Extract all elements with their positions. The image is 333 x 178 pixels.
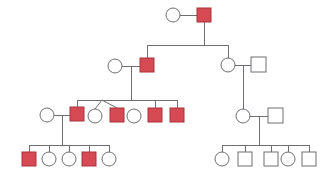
individual-III-8-female-unaffected[interactable] (236, 109, 250, 123)
pedigree-diagram (0, 0, 333, 178)
pedigree-chart (0, 0, 333, 178)
generation-III (29, 107, 309, 152)
individual-IV-6-female-unaffected[interactable] (215, 152, 229, 166)
individual-II-3-female-unaffected[interactable] (221, 58, 235, 72)
individual-II-4-male-unaffected[interactable] (251, 57, 266, 72)
individual-IV-1-male-affected[interactable] (22, 152, 36, 166)
individual-I-1-female-unaffected[interactable] (166, 8, 180, 22)
individual-IV-8-male-unaffected[interactable] (264, 152, 278, 166)
twin-fork-left-branch (95, 100, 102, 109)
generation-II (77, 57, 266, 109)
individual-III-1-female-unaffected[interactable] (40, 108, 54, 122)
individual-I-2-male-affected[interactable] (197, 8, 211, 22)
generation-I (147, 8, 228, 58)
generation-IV (22, 152, 316, 166)
individual-IV-7-male-unaffected[interactable] (238, 152, 252, 166)
individual-III-9-male-unaffected[interactable] (268, 108, 283, 123)
individual-IV-2-female-unaffected[interactable] (42, 152, 56, 166)
individual-IV-5-female-unaffected[interactable] (102, 152, 116, 166)
individual-II-2-male-affected[interactable] (140, 58, 154, 72)
individual-II-1-female-unaffected[interactable] (108, 59, 122, 73)
individual-III-3-female-unaffected-twin[interactable] (88, 109, 102, 123)
individual-III-7-male-affected[interactable] (170, 108, 184, 122)
individual-III-6-male-affected[interactable] (148, 108, 162, 122)
individual-III-4-male-affected-twin[interactable] (110, 108, 124, 122)
individual-IV-9-female-unaffected[interactable] (281, 152, 295, 166)
individual-IV-4-male-affected[interactable] (82, 152, 96, 166)
individual-IV-10-male-unaffected[interactable] (302, 152, 316, 166)
individual-III-5-female-unaffected[interactable] (127, 109, 141, 123)
individual-IV-3-female-unaffected[interactable] (62, 152, 76, 166)
twin-fork-right-branch (102, 100, 117, 108)
individual-III-2-male-affected[interactable] (70, 107, 84, 121)
